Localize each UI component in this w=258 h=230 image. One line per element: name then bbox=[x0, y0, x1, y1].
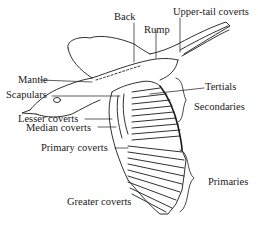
label-median-coverts: Median coverts bbox=[26, 123, 91, 134]
label-scapulars: Scapulars bbox=[6, 90, 47, 101]
label-back: Back bbox=[114, 12, 136, 23]
label-upper-tail-coverts: Upper-tail coverts bbox=[173, 7, 249, 18]
label-tertials: Tertials bbox=[205, 82, 236, 93]
label-rump: Rump bbox=[144, 25, 170, 36]
bird-anatomy-diagram: Back Rump Upper-tail coverts Mantle Scap… bbox=[0, 0, 258, 230]
secondary-feathers bbox=[132, 86, 182, 150]
label-secondaries: Secondaries bbox=[194, 102, 245, 113]
primary-feathers bbox=[128, 146, 186, 214]
label-primary-coverts: Primary coverts bbox=[41, 143, 108, 154]
label-mantle: Mantle bbox=[18, 75, 48, 86]
label-primaries: Primaries bbox=[208, 177, 248, 188]
label-greater-coverts: Greater coverts bbox=[67, 197, 131, 208]
